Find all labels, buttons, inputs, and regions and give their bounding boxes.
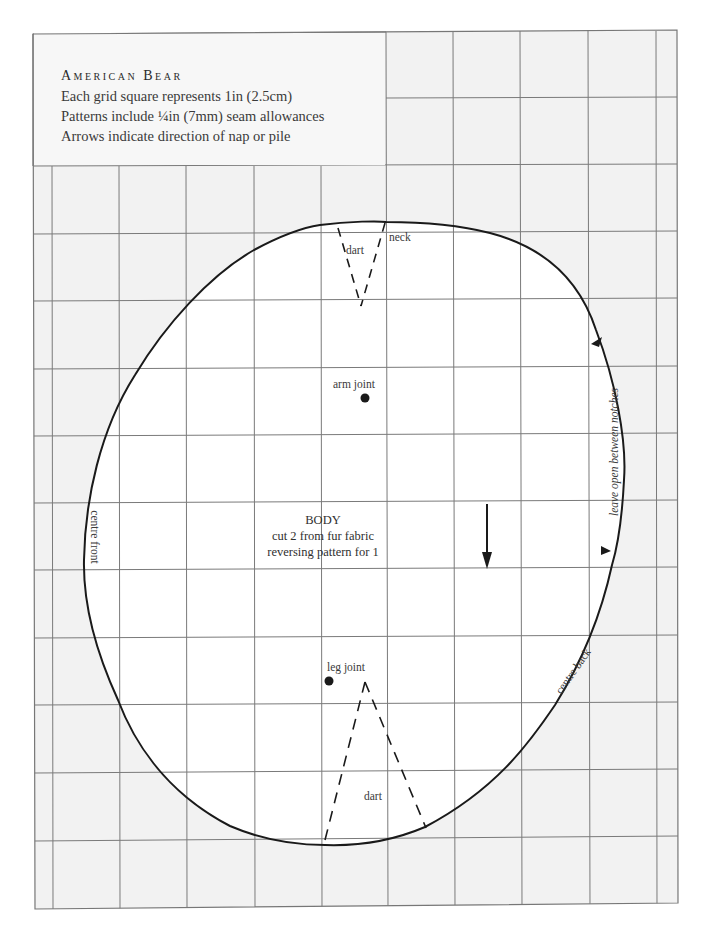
neck-dart-label: dart xyxy=(346,244,364,256)
opening-label: leave open between notches xyxy=(608,377,620,527)
arm-joint-marker xyxy=(361,394,370,403)
arm-joint-label: arm joint xyxy=(333,378,375,390)
header-line-seam: Patterns include ¼in (7mm) seam allowanc… xyxy=(61,106,324,126)
pattern-header: American Bear Each grid square represent… xyxy=(61,66,324,146)
piece-instruction-2: reversing pattern for 1 xyxy=(238,544,408,560)
leg-joint-marker xyxy=(325,677,334,686)
pattern-title: American Bear xyxy=(61,66,324,86)
centre-front-label: centre front xyxy=(89,502,101,572)
piece-info: BODY cut 2 from fur fabric reversing pat… xyxy=(238,512,408,560)
piece-name: BODY xyxy=(238,512,408,528)
pattern-sheet: American Bear Each grid square represent… xyxy=(0,0,710,941)
neck-label: neck xyxy=(389,231,411,243)
leg-joint-label: leg joint xyxy=(327,661,365,673)
header-line-arrows: Arrows indicate direction of nap or pile xyxy=(61,126,324,146)
leg-dart-label: dart xyxy=(364,790,382,802)
header-line-grid: Each grid square represents 1in (2.5cm) xyxy=(61,86,324,106)
piece-instruction-1: cut 2 from fur fabric xyxy=(238,528,408,544)
